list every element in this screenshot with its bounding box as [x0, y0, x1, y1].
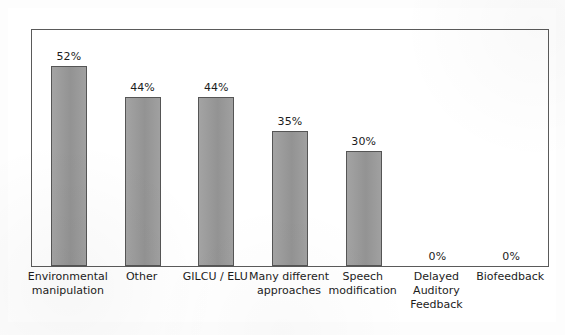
- bar-value-label: 30%: [351, 135, 376, 148]
- bar-value-label: 44%: [204, 81, 229, 94]
- x-axis-label: Biofeedback: [464, 270, 556, 284]
- plot-area: 52%44%44%35%30%0%0%: [31, 29, 549, 267]
- bar-value-label: 52%: [56, 50, 81, 63]
- bar-slot: 35%: [253, 30, 327, 266]
- x-axis-labels: EnvironmentalmanipulationOtherGILCU / EL…: [31, 270, 549, 324]
- outer-frame: 52%44%44%35%30%0%0% Environmentalmanipul…: [8, 8, 556, 322]
- bar-slot: 44%: [179, 30, 253, 266]
- x-axis-label-line: Biofeedback: [464, 270, 556, 284]
- x-axis-label-line: Feedback: [390, 298, 482, 312]
- x-axis-label-line: Auditory: [390, 284, 482, 298]
- bar-value-label: 35%: [278, 115, 303, 128]
- bar-slot: 0%: [474, 30, 548, 266]
- bar-value-label: 44%: [130, 81, 155, 94]
- bar-slot: 44%: [106, 30, 180, 266]
- bar[interactable]: [198, 97, 234, 266]
- bar-value-label: 0%: [429, 250, 447, 263]
- bar[interactable]: [51, 66, 87, 266]
- plot-interior: 52%44%44%35%30%0%0%: [32, 30, 548, 266]
- bar-slot: 30%: [327, 30, 401, 266]
- chart-scan-canvas: 52%44%44%35%30%0%0% Environmentalmanipul…: [0, 0, 565, 335]
- bar-value-label: 0%: [502, 250, 520, 263]
- bar-slot: 0%: [401, 30, 475, 266]
- bar[interactable]: [346, 151, 382, 267]
- x-axis-label-line: manipulation: [22, 284, 114, 298]
- bar[interactable]: [272, 131, 308, 266]
- bar-slot: 52%: [32, 30, 106, 266]
- bar[interactable]: [125, 97, 161, 266]
